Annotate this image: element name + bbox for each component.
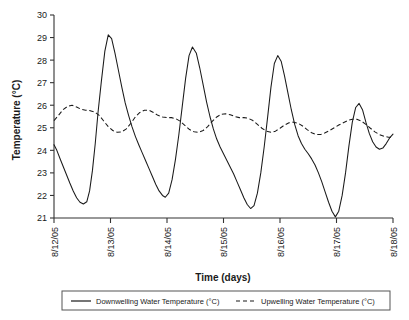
chart-figure: Temperature (°C) 21222324252627282930 8/… bbox=[0, 0, 409, 320]
y-tick-label: 23 bbox=[37, 168, 47, 178]
legend-label-downwelling: Downwelling Water Temperature (°C) bbox=[96, 297, 220, 306]
y-axis-title-text: Temperature (°C) bbox=[11, 80, 22, 161]
x-tick-label: 8/14/05 bbox=[163, 227, 173, 257]
x-tick-label: 8/13/05 bbox=[106, 227, 116, 257]
x-tick-label: 8/15/05 bbox=[219, 227, 229, 257]
y-tick-label: 22 bbox=[37, 191, 47, 201]
y-tick-label: 21 bbox=[37, 213, 47, 223]
x-tick-label: 8/12/05 bbox=[50, 227, 60, 257]
chart-legend: Downwelling Water Temperature (°C) Upwel… bbox=[62, 291, 390, 310]
x-tick-label: 8/18/05 bbox=[389, 227, 399, 257]
y-tick-label: 24 bbox=[37, 146, 47, 156]
y-tick-label: 26 bbox=[37, 101, 47, 111]
y-tick-label: 25 bbox=[37, 123, 47, 133]
x-tick-label: 8/16/05 bbox=[276, 227, 286, 257]
y-tick-label: 30 bbox=[37, 10, 47, 20]
legend-label-upwelling: Upwelling Water Temperature (°C) bbox=[261, 297, 375, 306]
x-tick-label: 8/17/05 bbox=[332, 227, 342, 257]
y-tick-label: 29 bbox=[37, 33, 47, 43]
y-tick-label: 28 bbox=[37, 56, 47, 66]
y-tick-label: 27 bbox=[37, 78, 47, 88]
chart-svg: Temperature (°C) 21222324252627282930 8/… bbox=[0, 0, 409, 320]
x-axis-title-text: Time (days) bbox=[195, 272, 250, 283]
y-axis-title: Temperature (°C) bbox=[11, 80, 22, 161]
